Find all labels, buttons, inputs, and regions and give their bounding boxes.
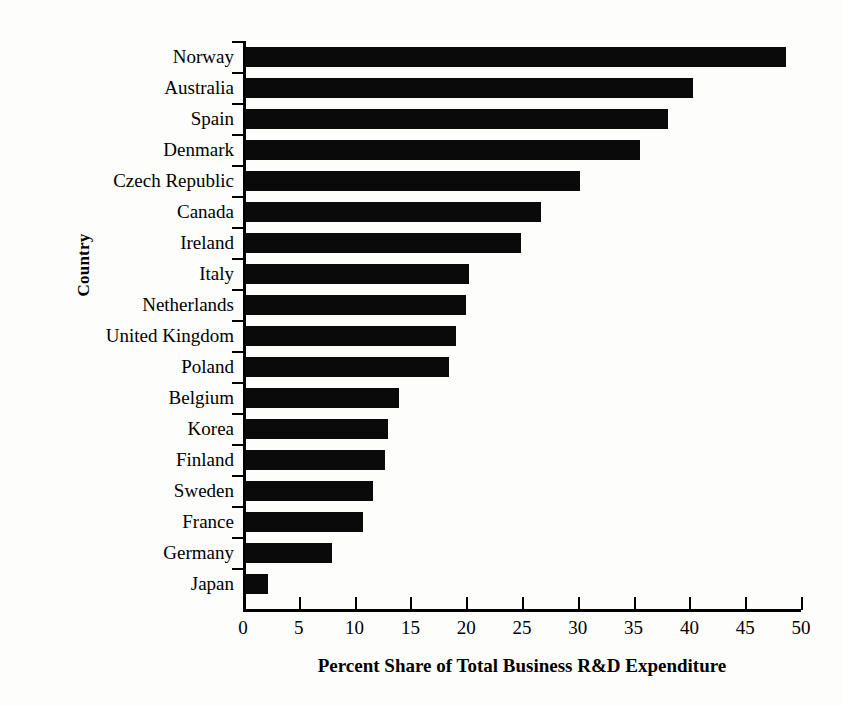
bar-row: Spain <box>243 103 801 134</box>
bar-row: Australia <box>243 72 801 103</box>
bar <box>245 109 668 129</box>
bar <box>245 357 449 377</box>
bar-row: Sweden <box>243 475 801 506</box>
y-axis-tick-label: United Kingdom <box>106 326 234 346</box>
y-axis-tick <box>232 165 243 167</box>
bar <box>245 543 332 563</box>
y-axis-tick-label: Italy <box>199 264 234 284</box>
x-axis-tick <box>466 597 468 610</box>
x-axis-tick-label: 15 <box>380 617 440 639</box>
y-axis-tick-label: Denmark <box>163 140 234 160</box>
x-axis-tick <box>578 597 580 610</box>
y-axis-tick-label: Australia <box>164 78 234 98</box>
y-axis-tick-label: Netherlands <box>142 295 234 315</box>
bar <box>245 78 693 98</box>
bar-row: Czech Republic <box>243 165 801 196</box>
bar-row: Netherlands <box>243 289 801 320</box>
x-axis-tick-label: 20 <box>436 617 496 639</box>
bar <box>245 295 466 315</box>
x-axis-title: Percent Share of Total Business R&D Expe… <box>243 655 801 677</box>
bar <box>245 450 385 470</box>
x-axis-tick <box>522 597 524 610</box>
y-axis-tick-label: Korea <box>188 419 234 439</box>
bar <box>245 388 399 408</box>
x-axis-tick-label: 50 <box>771 617 831 639</box>
y-axis-tick <box>232 506 243 508</box>
y-axis-tick-label: Norway <box>173 47 234 67</box>
bar <box>245 233 521 253</box>
x-axis-tick-label: 5 <box>269 617 329 639</box>
x-axis-tick <box>299 597 301 610</box>
bar-row: Japan <box>243 568 801 599</box>
x-axis-tick <box>801 597 803 610</box>
bar-row: Denmark <box>243 134 801 165</box>
bar-row: Poland <box>243 351 801 382</box>
bar <box>245 512 363 532</box>
y-axis-tick <box>232 444 243 446</box>
y-axis-tick-label: Czech Republic <box>113 171 234 191</box>
bar-row: Norway <box>243 41 801 72</box>
bar-row: Belgium <box>243 382 801 413</box>
y-axis-tick <box>232 568 243 570</box>
x-axis-tick-label: 40 <box>659 617 719 639</box>
y-axis-tick <box>232 537 243 539</box>
y-axis-tick-label: Germany <box>163 543 234 563</box>
bar <box>245 140 640 160</box>
bar-row: France <box>243 506 801 537</box>
y-axis-tick <box>232 289 243 291</box>
bar <box>245 419 388 439</box>
y-axis-tick <box>232 103 243 105</box>
x-axis-tick-label: 45 <box>715 617 775 639</box>
x-axis-tick <box>745 597 747 610</box>
bar-row: Finland <box>243 444 801 475</box>
bar <box>245 264 469 284</box>
plot-area: NorwayAustraliaSpainDenmarkCzech Republi… <box>243 41 801 612</box>
bar <box>245 481 373 501</box>
y-axis-tick <box>232 413 243 415</box>
y-axis-tick <box>232 72 243 74</box>
bar-row: Ireland <box>243 227 801 258</box>
bar-row: Germany <box>243 537 801 568</box>
y-axis-tick <box>232 475 243 477</box>
bar <box>245 202 541 222</box>
x-axis-tick-label: 25 <box>492 617 552 639</box>
bar <box>245 47 786 67</box>
x-axis-tick <box>355 597 357 610</box>
bar-row: Canada <box>243 196 801 227</box>
x-axis-tick-label: 0 <box>213 617 273 639</box>
y-axis-tick <box>232 351 243 353</box>
x-axis-tick <box>410 597 412 610</box>
y-axis-tick <box>232 196 243 198</box>
bar-row: Korea <box>243 413 801 444</box>
x-axis-tick-label: 10 <box>325 617 385 639</box>
bar-chart: Country NorwayAustraliaSpainDenmarkCzech… <box>0 0 843 706</box>
bar-row: United Kingdom <box>243 320 801 351</box>
y-axis-tick <box>232 320 243 322</box>
x-axis-tick <box>689 597 691 610</box>
y-axis-tick <box>232 258 243 260</box>
y-axis-tick-label: Belgium <box>169 388 234 408</box>
x-axis-tick-label: 30 <box>548 617 608 639</box>
y-axis-tick-label: Finland <box>176 450 234 470</box>
y-axis-tick-label: Canada <box>177 202 234 222</box>
bar-row: Italy <box>243 258 801 289</box>
bar <box>245 171 580 191</box>
y-axis-tick-label: Japan <box>191 574 234 594</box>
y-axis-tick-label: Ireland <box>180 233 234 253</box>
y-axis-tick-label: Poland <box>181 357 234 377</box>
y-axis-tick <box>232 227 243 229</box>
y-axis-tick <box>232 382 243 384</box>
x-axis-tick-label: 35 <box>604 617 664 639</box>
y-axis-tick-label: Spain <box>191 109 234 129</box>
bar <box>245 574 268 594</box>
y-axis-tick-label: France <box>182 512 234 532</box>
y-axis-title: Country <box>74 195 94 335</box>
y-axis-tick-label: Sweden <box>174 481 234 501</box>
y-axis-tick <box>232 41 243 43</box>
x-axis-tick <box>634 597 636 610</box>
y-axis-tick <box>232 134 243 136</box>
bar <box>245 326 456 346</box>
